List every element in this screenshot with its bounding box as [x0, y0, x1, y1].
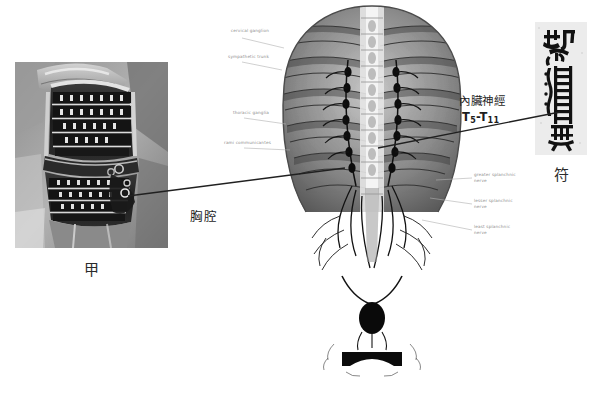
- callout-splanchnic-nerve: 內臟神經: [459, 92, 505, 108]
- photo-caption: 甲: [15, 258, 168, 279]
- figure-root: 甲: [0, 0, 614, 393]
- talisman-image: [535, 22, 587, 155]
- plate-note-right-0: greater splanchnic nerve: [474, 172, 522, 184]
- level-start: 5: [470, 116, 476, 125]
- armour-photograph: [15, 62, 168, 248]
- plate-note-right-2: least splanchnic nerve: [474, 224, 522, 236]
- plate-note-left-2: thoracic ganglia: [221, 110, 269, 116]
- plate-note-left-0: cervical ganglion: [221, 28, 269, 34]
- callout-thoracic-cavity: 胸腔: [190, 206, 217, 225]
- callout-spinal-levels: T5-T11: [462, 110, 499, 124]
- plate-note-left-1: sympathetic trunk: [221, 54, 269, 60]
- plate-note-left-3: rami communicantes: [221, 140, 271, 146]
- level-dash: -T: [476, 110, 488, 124]
- plate-note-right-1: lesser splanchnic nerve: [474, 198, 522, 210]
- level-prefix: T: [462, 110, 470, 124]
- level-end: 11: [488, 116, 500, 125]
- talisman-caption: 符: [535, 163, 587, 184]
- anatomy-plate: cervical ganglion sympathetic trunk thor…: [222, 0, 522, 380]
